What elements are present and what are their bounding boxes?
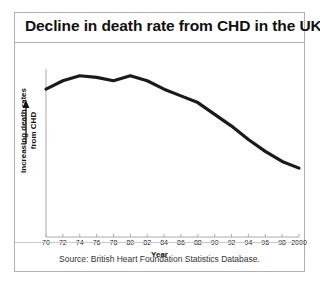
- chart-title: Decline in death rate from CHD in the UK: [25, 17, 319, 35]
- plot-area: Increasing death rates from CHD 70727476…: [15, 43, 304, 242]
- chart-figure: Decline in death rate from CHD in the UK…: [14, 12, 305, 272]
- source-caption: Source: British Heart Foundation Statist…: [15, 254, 304, 264]
- increasing-up-arrow-icon: [21, 99, 31, 145]
- title-band: Decline in death rate from CHD in the UK: [15, 13, 304, 42]
- line-chart-canvas: [15, 43, 304, 242]
- footer-divider: [15, 242, 304, 243]
- chd-death-rate-line: [46, 76, 299, 168]
